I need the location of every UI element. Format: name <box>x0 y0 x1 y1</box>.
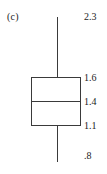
label-q3: 1.6 <box>84 73 97 83</box>
panel-label: (c) <box>7 11 19 22</box>
lower-whisker-line <box>57 126 58 162</box>
upper-whisker-line <box>57 17 58 78</box>
label-median: 1.4 <box>84 97 97 107</box>
label-whisker-max: 2.3 <box>84 12 97 22</box>
median-line <box>31 101 81 102</box>
label-q1: 1.1 <box>84 121 97 131</box>
boxplot-figure: (c) 2.3 1.6 1.4 1.1 .8 <box>0 0 107 174</box>
label-whisker-min: .8 <box>84 151 92 161</box>
